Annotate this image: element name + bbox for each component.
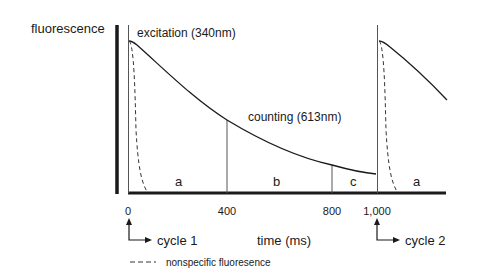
excitation-label: excitation (340nm) (137, 26, 236, 40)
nonspecific-curve-cycle2 (379, 41, 398, 193)
y-axis-label: fluorescence (31, 21, 105, 36)
region-label-c: c (350, 174, 357, 189)
x-axis-label: time (ms) (257, 233, 311, 248)
cycle1-arrow-icon (126, 218, 152, 243)
x-tick-400: 400 (218, 205, 236, 217)
nonspecific-curve-cycle1 (129, 41, 148, 193)
region-label-a2: a (413, 174, 421, 189)
decay-curve-cycle1 (129, 41, 376, 174)
cycle2-arrow-icon (374, 218, 400, 243)
x-tick-0: 0 (125, 205, 131, 217)
region-label-a1: a (175, 174, 183, 189)
legend-label: nonspecific fluoresence (166, 257, 271, 268)
x-tick-1000: 1,000 (363, 205, 391, 217)
cycle2-label: cycle 2 (405, 233, 445, 248)
cycle1-label: cycle 1 (157, 233, 197, 248)
counting-label: counting (613nm) (248, 110, 341, 124)
fluorescence-timing-diagram: fluorescence excitation (340nm) counting… (0, 0, 477, 275)
region-label-b: b (273, 174, 280, 189)
x-tick-800: 800 (323, 205, 341, 217)
decay-curve-cycle2 (379, 41, 447, 100)
